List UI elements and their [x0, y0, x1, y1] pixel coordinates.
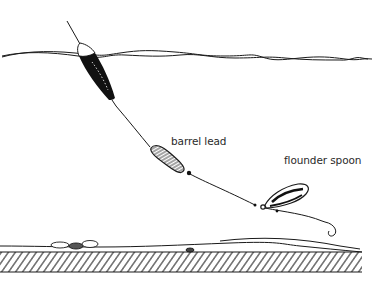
float-icon: [67, 21, 116, 106]
hook-icon: [265, 208, 336, 236]
barrel-lead-label: barrel lead: [171, 135, 226, 147]
water-surface: [2, 51, 372, 61]
pebble-icon: [51, 242, 69, 248]
fishing-line: [116, 106, 255, 205]
barrel-lead-icon: [151, 146, 191, 176]
flounder-spoon-label: flounder spoon: [284, 154, 361, 166]
flounder-spoon-icon: [254, 184, 309, 209]
seabed: [0, 238, 362, 272]
